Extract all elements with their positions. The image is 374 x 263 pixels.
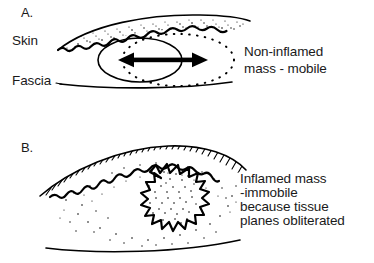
panel-b-callout-line-3: because tissue	[240, 199, 329, 214]
fascia-leader-a	[56, 83, 62, 84]
panel-a-callout-line-1: Non-inflamed	[244, 44, 323, 59]
panel-b-callout-line-2: -immobile	[240, 185, 298, 200]
skin-inner-wavy-edge-b	[50, 164, 219, 197]
inflamed-mass-outline	[141, 164, 209, 231]
fascia-label: Fascia	[12, 73, 52, 88]
panel-a-group: A. Skin Fascia Non-inflamed mass - mobil…	[12, 5, 327, 88]
panel-a-callout-line-2: mass - mobile	[244, 61, 327, 76]
panel-a-label: A.	[21, 5, 33, 20]
skin-hatching-b	[46, 142, 242, 195]
panel-b-label: B.	[21, 140, 33, 155]
fascia-line-b	[46, 240, 240, 252]
panel-b-callout-line-1: Inflamed mass	[240, 171, 327, 186]
diagram-svg: A. Skin Fascia Non-inflamed mass - mobil…	[0, 0, 374, 263]
mobility-double-arrow	[118, 53, 208, 68]
panel-b-skin-band	[40, 142, 246, 198]
panel-b-callout-line-4: planes obliterated	[240, 213, 345, 228]
skin-stipple-a	[63, 19, 243, 48]
figure-canvas: A. Skin Fascia Non-inflamed mass - mobil…	[0, 0, 374, 263]
panel-b-group: B. Inflamed mass -immobile because tissu…	[21, 140, 345, 252]
skin-label: Skin	[12, 33, 38, 48]
panel-a-skin-band	[58, 15, 250, 51]
